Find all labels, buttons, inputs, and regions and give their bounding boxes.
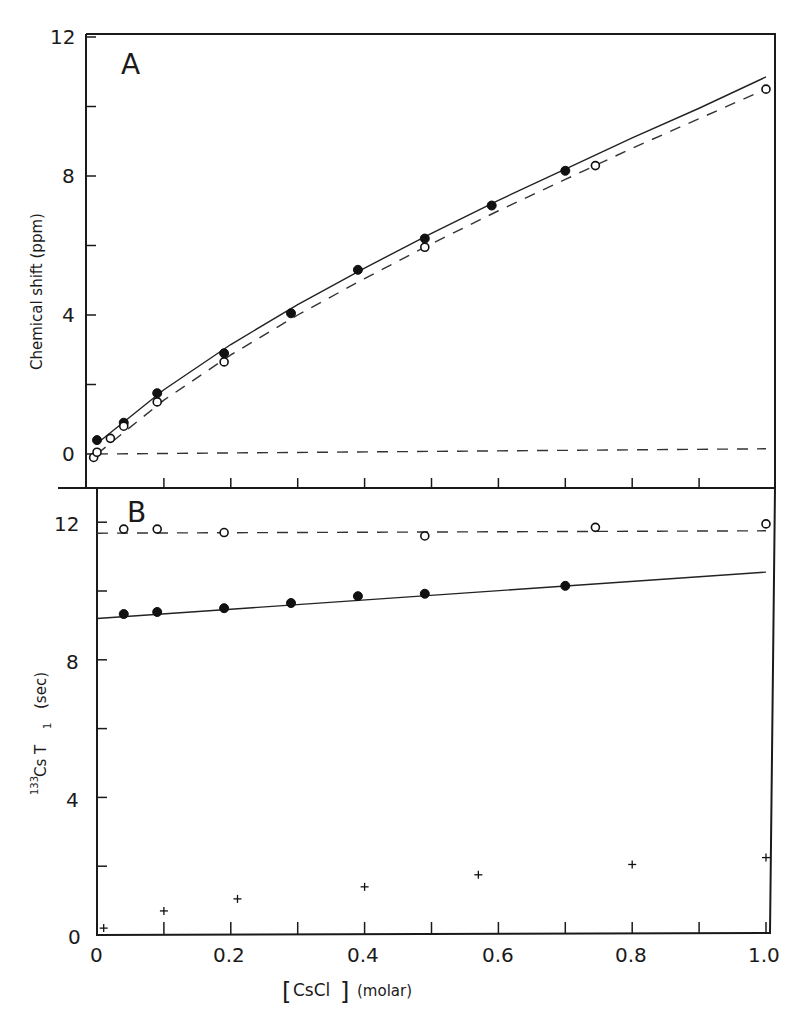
filled-data-point [487, 201, 496, 210]
x-axis-unit: (molar) [357, 982, 412, 1000]
b-ylabel-subscript: 1 [42, 723, 53, 729]
open-data-point [421, 243, 429, 251]
xtick-label-0: 0 [90, 943, 103, 967]
open-data-point [591, 523, 599, 531]
x-axis-label: [ CsCl ] (molar) [282, 978, 412, 1006]
xtick-label-0.8: 0.8 [615, 943, 647, 967]
panel-b-yticks [97, 522, 107, 866]
filled-data-point [420, 589, 429, 598]
open-data-point [421, 532, 429, 540]
a-ytick-label-12: 12 [50, 25, 75, 49]
panel-b-y-axis-label: 133 Cs T 1 (sec) [29, 672, 53, 795]
panel-b-xticks [164, 922, 766, 934]
open-data-point [762, 85, 770, 93]
cross-data-point [474, 871, 482, 879]
dashed-fit-line [97, 89, 766, 454]
open-data-point [120, 422, 128, 430]
open-data-point [153, 525, 161, 533]
x-axis-bracket-right: ] [340, 978, 349, 1006]
open-data-point [93, 448, 101, 456]
x-axis-bracket-left: [ [282, 978, 291, 1006]
panel-a-yticks [86, 37, 96, 454]
xtick-label-1.0: 1.0 [748, 943, 780, 967]
panel-a-label: A [121, 48, 140, 81]
filled-data-point [220, 349, 229, 358]
panel-b-series [97, 520, 770, 932]
open-data-point [591, 162, 599, 170]
a-ytick-label-0: 0 [62, 442, 75, 466]
xtick-label-0.4: 0.4 [347, 943, 379, 967]
panel-a-xticks [164, 478, 699, 488]
cross-data-point [628, 860, 636, 868]
filled-data-point [420, 234, 429, 243]
a-ytick-label-8: 8 [62, 164, 75, 188]
b-ytick-label-12: 12 [54, 512, 79, 536]
filled-data-point [353, 592, 362, 601]
x-axis-species: CsCl [293, 980, 330, 1000]
solid-fit-line [97, 572, 766, 618]
b-ytick-label-4: 4 [66, 788, 79, 812]
dashed-fit-line [97, 449, 766, 454]
cross-data-point [233, 895, 241, 903]
open-data-point [220, 529, 228, 537]
panel-b-frame [97, 488, 775, 935]
chart-figure: 12 8 4 0 12 8 4 0 0 0.2 0.4 0.6 0.8 1.0 … [0, 0, 803, 1018]
panel-a-y-axis-label: Chemical shift (ppm) [28, 213, 46, 370]
open-data-point [106, 434, 114, 442]
cross-data-point [100, 924, 108, 932]
open-data-point [120, 525, 128, 533]
dashed-fit-line [97, 531, 766, 533]
filled-data-point [287, 599, 296, 608]
cross-data-point [762, 854, 770, 862]
b-ytick-label-8: 8 [66, 650, 79, 674]
cross-data-point [160, 907, 168, 915]
b-ylabel-unit: (sec) [32, 672, 50, 709]
filled-data-point [287, 309, 296, 318]
open-data-point [220, 358, 228, 366]
filled-data-point [220, 604, 229, 613]
filled-data-point [153, 389, 162, 398]
b-ytick-label-0: 0 [68, 925, 81, 949]
filled-data-point [93, 436, 102, 445]
open-data-point [762, 520, 770, 528]
panel-b-label: B [127, 496, 146, 529]
filled-data-point [119, 610, 128, 619]
xtick-label-0.6: 0.6 [482, 943, 514, 967]
open-data-point [153, 398, 161, 406]
filled-data-point [561, 166, 570, 175]
a-ytick-label-4: 4 [62, 303, 75, 327]
b-ylabel-main: Cs T [32, 744, 50, 777]
xtick-label-0.2: 0.2 [213, 943, 245, 967]
panel-a-series [90, 77, 770, 462]
b-ylabel-isotope-mass: 133 [29, 776, 40, 795]
filled-data-point [153, 607, 162, 616]
filled-data-point [353, 265, 362, 274]
solid-fit-line [97, 77, 766, 444]
panel-a-frame [58, 34, 775, 488]
cross-data-point [361, 883, 369, 891]
filled-data-point [561, 581, 570, 590]
